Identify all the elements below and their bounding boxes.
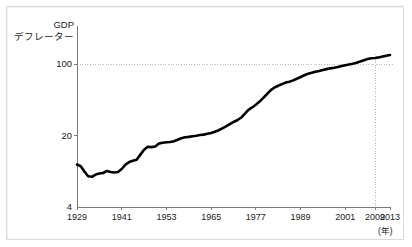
gridlines-group	[77, 54, 393, 207]
chart-figure: GDP デフレーター 100204 1929194119531965197719…	[0, 0, 412, 247]
y-axis-title: GDP デフレーター	[14, 19, 74, 42]
x-tick-label: 1941	[105, 212, 139, 222]
x-tick-label: 1977	[239, 212, 273, 222]
x-tick-label: 2013	[373, 212, 407, 222]
y-tick-label: 20	[61, 130, 72, 141]
y-axis-title-line2: デフレーター	[14, 31, 74, 43]
axis-ticks-group	[74, 64, 390, 210]
x-tick-label: 1965	[194, 212, 228, 222]
y-tick-label: 4	[67, 201, 72, 212]
x-tick-label: 1953	[149, 212, 183, 222]
x-tick-label: 1929	[60, 212, 94, 222]
y-tick-label: 100	[56, 58, 72, 69]
axis-lines-group	[77, 26, 391, 207]
x-axis-unit-label: (年)	[378, 224, 393, 236]
x-tick-label: 1989	[284, 212, 318, 222]
data-series-group	[77, 55, 390, 177]
y-axis-title-line1: GDP	[14, 19, 74, 31]
